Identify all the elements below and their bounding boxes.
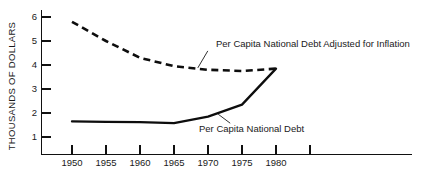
y-tick-label: 3 [32, 83, 37, 94]
y-tick-label: 2 [32, 107, 37, 118]
annotation-label-adjusted-for-inflation: Per Capita National Debt Adjusted for In… [216, 38, 410, 49]
y-axis-group: 123456 THOUSANDS OF DOLLARS [6, 10, 51, 155]
x-tick-label: 1980 [265, 157, 286, 168]
line-chart: 123456 THOUSANDS OF DOLLARS 195019551960… [0, 0, 426, 179]
x-tick-label: 1970 [197, 157, 218, 168]
annotation-per-capita-national-debt: Per Capita National Debt [199, 114, 304, 133]
y-axis-title: THOUSANDS OF DOLLARS [6, 22, 17, 150]
x-tick-label: 1975 [231, 157, 252, 168]
x-axis-group: 1950195519601965197019751980 [41, 145, 412, 168]
x-tick-label: 1950 [61, 157, 82, 168]
annotations-group: Per Capita National Debt Adjusted for In… [198, 38, 410, 134]
y-tick-label: 1 [32, 131, 37, 142]
y-axis-ticks [42, 17, 52, 137]
leader-line-icon [198, 51, 208, 68]
series-line-per-capita-national-debt [72, 69, 276, 124]
x-tick-label: 1955 [95, 157, 116, 168]
annotation-adjusted-for-inflation: Per Capita National Debt Adjusted for In… [198, 38, 410, 68]
y-tick-label: 5 [32, 35, 37, 46]
chart-container: 123456 THOUSANDS OF DOLLARS 195019551960… [0, 0, 426, 179]
x-axis-ticks [72, 145, 310, 155]
y-axis-tick-labels: 123456 [32, 11, 37, 142]
x-tick-label: 1960 [129, 157, 150, 168]
x-axis-tick-labels: 1950195519601965197019751980 [61, 157, 286, 168]
y-tick-label: 6 [32, 11, 37, 22]
x-tick-label: 1965 [163, 157, 184, 168]
y-tick-label: 4 [32, 59, 37, 70]
annotation-label-per-capita-national-debt: Per Capita National Debt [199, 123, 304, 134]
